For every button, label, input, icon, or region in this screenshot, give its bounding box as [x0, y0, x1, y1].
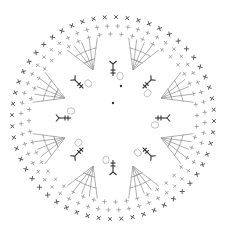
single-crochet-plus-icon [146, 200, 152, 206]
single-crochet-plus-icon [97, 33, 102, 38]
single-crochet-x-icon [90, 15, 97, 22]
single-crochet-x-icon [17, 156, 24, 163]
single-crochet-x-icon [12, 89, 19, 96]
single-crochet-x-icon [8, 111, 15, 118]
single-crochet-plus-icon [30, 139, 35, 144]
double-crochet-stem [129, 166, 133, 199]
single-crochet-x-icon [204, 151, 211, 158]
single-crochet-plus-icon [171, 172, 177, 178]
single-crochet-plus-icon [135, 27, 140, 32]
single-crochet-x-icon [9, 100, 16, 107]
treble-cluster-icon [110, 61, 124, 80]
stitch-wedge [161, 134, 194, 164]
stitch-crossbar-icon [88, 49, 92, 50]
single-crochet-x-icon [199, 161, 206, 168]
single-crochet-x-icon [29, 176, 35, 182]
single-crochet-plus-icon [171, 46, 177, 52]
treble-cluster-icon [56, 108, 75, 122]
single-crochet-plus-icon [33, 150, 39, 156]
single-crochet-x-icon [101, 14, 108, 21]
single-crochet-plus-icon [199, 140, 204, 145]
single-crochet-plus-icon [45, 168, 51, 174]
single-crochet-plus-icon [178, 53, 184, 59]
single-crochet-plus-icon [39, 159, 45, 165]
double-crochet-stem [129, 38, 133, 71]
single-crochet-plus-icon [75, 200, 81, 206]
single-crochet-plus-icon [102, 199, 107, 204]
single-crochet-x-icon [210, 117, 217, 124]
single-crochet-plus-icon [201, 99, 206, 104]
single-crochet-x-icon [95, 214, 102, 221]
single-crochet-plus-icon [22, 90, 27, 95]
single-crochet-x-icon [161, 202, 167, 208]
single-crochet-x-icon [166, 31, 172, 37]
stitch-crossbar-icon [88, 185, 92, 186]
single-crochet-plus-icon [181, 71, 187, 77]
stitch-wedge [129, 166, 159, 199]
single-crochet-plus-icon [185, 168, 191, 174]
single-crochet-plus-icon [198, 89, 203, 94]
single-crochet-x-icon [187, 180, 193, 186]
single-crochet-plus-icon [164, 190, 170, 196]
single-crochet-plus-icon [189, 145, 195, 151]
single-crochet-plus-icon [163, 180, 169, 186]
single-crochet-plus-icon [20, 101, 25, 106]
single-crochet-plus-icon [28, 129, 33, 134]
single-crochet-plus-icon [61, 183, 67, 189]
single-crochet-x-icon [33, 50, 39, 56]
single-crochet-plus-icon [184, 155, 190, 161]
single-crochet-x-icon [118, 215, 125, 222]
double-crochet-stem [33, 134, 66, 138]
accent-stitch-clusters [56, 61, 170, 175]
single-crochet-plus-icon [179, 176, 185, 182]
stitch-crossbar-icon [50, 80, 52, 84]
single-crochet-x-icon [26, 59, 32, 65]
single-crochet-x-icon [210, 106, 217, 113]
single-crochet-x-icon [129, 213, 136, 220]
chain-ring-icon [67, 108, 75, 114]
single-crochet-plus-icon [66, 44, 72, 50]
double-crochet-stem [161, 98, 194, 102]
single-crochet-x-icon [49, 34, 55, 40]
chain-ring-icon [103, 156, 109, 164]
stitch-crossbar-icon [147, 55, 151, 57]
single-crochet-plus-icon [130, 34, 135, 39]
single-crochet-plus-icon [49, 57, 55, 63]
single-crochet-plus-icon [195, 150, 201, 156]
single-crochet-plus-icon [134, 196, 139, 201]
single-crochet-plus-icon [202, 110, 207, 115]
chain-ring-icon [117, 72, 123, 80]
stitch-crossbar-icon [174, 152, 176, 156]
single-crochet-plus-icon [201, 130, 206, 135]
single-crochet-x-icon [10, 134, 17, 141]
single-crochet-plus-icon [191, 91, 196, 96]
single-crochet-plus-icon [105, 24, 110, 29]
stitch-crossbar-icon [75, 179, 79, 181]
single-crochet-x-icon [63, 204, 70, 211]
stitch-crossbar-icon [134, 49, 138, 50]
single-crochet-x-icon [73, 209, 80, 216]
stitch-crossbar-icon [44, 139, 45, 143]
treble-cluster-icon [137, 75, 160, 98]
single-crochet-plus-icon [48, 47, 54, 53]
single-crochet-plus-icon [175, 62, 181, 68]
single-crochet-plus-icon [86, 35, 91, 40]
single-crochet-x-icon [171, 196, 177, 202]
single-crochet-x-icon [20, 68, 27, 75]
single-crochet-x-icon [140, 211, 147, 218]
single-crochet-x-icon [124, 14, 131, 21]
single-crochet-plus-icon [57, 50, 63, 56]
single-crochet-plus-icon [190, 70, 196, 76]
single-crochet-plus-icon [30, 160, 36, 166]
single-crochet-plus-icon [56, 40, 62, 46]
single-crochet-plus-icon [25, 151, 31, 157]
stitch-wedge [33, 134, 66, 164]
chain-ring-icon [83, 78, 93, 88]
single-crochet-plus-icon [32, 85, 38, 91]
single-crochet-plus-icon [19, 121, 24, 126]
single-crochet-plus-icon [91, 197, 96, 202]
single-crochet-plus-icon [106, 208, 111, 213]
chain-ring-icon [143, 88, 153, 98]
stitch-crossbar-icon [44, 93, 45, 97]
stitch-wedge [33, 72, 66, 102]
